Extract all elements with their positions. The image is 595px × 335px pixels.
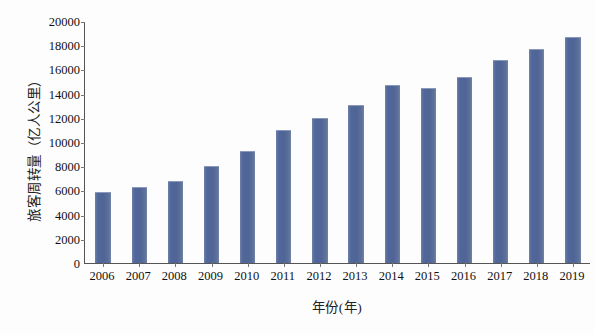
- x-tick-label-2018: 2018: [523, 268, 548, 284]
- bar-2015: [421, 88, 436, 263]
- bar-2012: [312, 118, 327, 263]
- x-tick-label-2019: 2019: [559, 268, 584, 284]
- x-tick-label-2009: 2009: [198, 268, 223, 284]
- x-tick-label-2011: 2011: [271, 268, 296, 284]
- bar-2007: [132, 187, 147, 263]
- x-tick-mark: [537, 263, 538, 267]
- bar-2017: [493, 60, 508, 263]
- x-tick-mark: [501, 263, 502, 267]
- y-tick-label: 2000: [36, 234, 80, 246]
- y-tick-label: 4000: [36, 210, 80, 222]
- x-axis-tick-labels: 2006200720082009201020112012201320142015…: [84, 268, 590, 288]
- x-tick-label-2010: 2010: [234, 268, 259, 284]
- y-tick-label: 16000: [36, 64, 80, 76]
- y-tick-label: 8000: [36, 161, 80, 173]
- bar-2013: [348, 105, 363, 263]
- y-tick-mark: [81, 191, 85, 192]
- x-tick-mark: [212, 263, 213, 267]
- y-tick-label: 18000: [36, 40, 80, 52]
- x-tick-mark: [284, 263, 285, 267]
- bar-2019: [565, 37, 580, 263]
- y-tick-mark: [81, 70, 85, 71]
- bar-2011: [276, 130, 291, 263]
- bar-2014: [385, 85, 400, 263]
- y-tick-label: 6000: [36, 185, 80, 197]
- x-tick-label-2012: 2012: [306, 268, 331, 284]
- x-tick-label-2008: 2008: [162, 268, 187, 284]
- x-tick-mark: [175, 263, 176, 267]
- x-tick-mark: [320, 263, 321, 267]
- x-tick-label-2016: 2016: [451, 268, 476, 284]
- y-tick-label: 0: [36, 258, 80, 270]
- x-tick-mark: [573, 263, 574, 267]
- bar-2008: [168, 181, 183, 263]
- plot-area: [84, 22, 590, 264]
- x-tick-label-2013: 2013: [343, 268, 368, 284]
- x-tick-mark: [103, 263, 104, 267]
- y-axis-tick-labels: 0200040006000800010000120001400016000180…: [36, 22, 80, 264]
- x-tick-mark: [139, 263, 140, 267]
- y-tick-mark: [81, 119, 85, 120]
- y-tick-mark: [81, 216, 85, 217]
- y-tick-label: 20000: [36, 16, 80, 28]
- x-tick-mark: [428, 263, 429, 267]
- bar-2016: [457, 77, 472, 263]
- x-tick-label-2006: 2006: [90, 268, 115, 284]
- bar-2018: [529, 49, 544, 263]
- x-tick-label-2015: 2015: [415, 268, 440, 284]
- x-tick-mark: [465, 263, 466, 267]
- y-tick-mark: [81, 46, 85, 47]
- x-tick-label-2014: 2014: [379, 268, 404, 284]
- bar-chart: 旅客周转量（亿人公里） 0200040006000800010000120001…: [0, 0, 595, 335]
- y-tick-mark: [81, 143, 85, 144]
- bar-2006: [95, 192, 110, 263]
- x-axis-title: 年份(年): [84, 296, 590, 316]
- y-tick-label: 10000: [36, 137, 80, 149]
- bar-2009: [204, 166, 219, 263]
- y-tick-mark: [81, 95, 85, 96]
- y-tick-label: 12000: [36, 113, 80, 125]
- y-tick-mark: [81, 22, 85, 23]
- bar-2010: [240, 151, 255, 263]
- x-tick-mark: [392, 263, 393, 267]
- x-tick-mark: [356, 263, 357, 267]
- x-tick-mark: [248, 263, 249, 267]
- y-tick-mark: [81, 240, 85, 241]
- x-tick-label-2007: 2007: [126, 268, 151, 284]
- y-tick-label: 14000: [36, 89, 80, 101]
- y-tick-mark: [81, 167, 85, 168]
- bars-layer: [85, 22, 590, 263]
- x-tick-label-2017: 2017: [487, 268, 512, 284]
